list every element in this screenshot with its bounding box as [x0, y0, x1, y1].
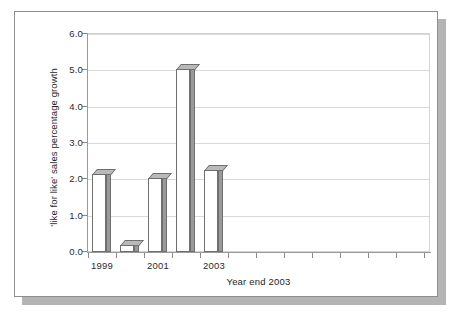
x-tick-mark-1 — [116, 253, 117, 258]
x-tick-mark-11 — [396, 253, 397, 258]
y-tick-label-5: 5.0 — [39, 64, 83, 75]
chart-canvas: 6.0 5.0 4.0 3.0 2.0 1.0 0.0 1999 — [15, 12, 437, 296]
bar-front-2000 — [120, 245, 134, 252]
plot-area — [87, 33, 430, 252]
x-tick-mark-6 — [256, 253, 257, 258]
bar-1999 — [92, 174, 106, 252]
x-tick-mark-12 — [424, 253, 425, 258]
y-tick-label-4: 4.0 — [39, 100, 83, 111]
x-axis-title: Year end 2003 — [87, 276, 430, 287]
figure-frame: 6.0 5.0 4.0 3.0 2.0 1.0 0.0 1999 — [14, 11, 438, 297]
x-tick-mark-8 — [312, 253, 313, 258]
x-tick-mark-7 — [284, 253, 285, 258]
y-tick-label-0: 0.0 — [39, 246, 83, 257]
bar-side-2003 — [218, 170, 223, 252]
screenshot-root: 6.0 5.0 4.0 3.0 2.0 1.0 0.0 1999 — [0, 0, 457, 316]
y-tick-label-2: 2.0 — [39, 173, 83, 184]
gridline-6.0 — [88, 34, 429, 35]
bar-2000 — [120, 245, 134, 252]
bar-side-1999 — [106, 174, 111, 252]
bar-side-2002 — [190, 69, 195, 252]
x-tick-mark-5 — [228, 253, 229, 258]
bar-front-2002 — [176, 69, 190, 252]
gridline-1.0 — [88, 216, 429, 217]
y-axis-line — [87, 33, 88, 253]
x-tick-label-2003: 2003 — [203, 260, 225, 271]
x-tick-mark-2 — [144, 253, 145, 258]
x-tick-label-1999: 1999 — [91, 260, 113, 271]
y-tick-label-3: 3.0 — [39, 137, 83, 148]
x-tick-label-2001: 2001 — [147, 260, 169, 271]
bar-front-2003 — [204, 170, 218, 252]
y-tick-label-6: 6.0 — [39, 28, 83, 39]
x-tick-mark-3 — [172, 253, 173, 258]
gridline-2.0 — [88, 179, 429, 180]
bar-side-2001 — [162, 178, 167, 252]
y-axis-title: 'like for like' sales percentage growth — [48, 43, 59, 253]
x-tick-mark-0 — [88, 253, 89, 258]
bar-2002 — [176, 69, 190, 252]
gridline-3.0 — [88, 143, 429, 144]
x-axis-line — [87, 252, 431, 253]
bar-2003 — [204, 170, 218, 252]
bar-front-1999 — [92, 174, 106, 252]
gridline-5.0 — [88, 70, 429, 71]
x-tick-mark-10 — [368, 253, 369, 258]
x-tick-mark-4 — [200, 253, 201, 258]
bar-side-2000 — [134, 245, 139, 252]
gridline-4.0 — [88, 107, 429, 108]
bar-2001 — [148, 178, 162, 252]
y-tick-label-1: 1.0 — [39, 209, 83, 220]
bar-front-2001 — [148, 178, 162, 252]
x-tick-mark-9 — [340, 253, 341, 258]
